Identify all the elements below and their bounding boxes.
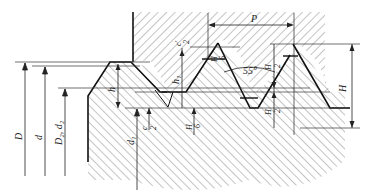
label-D2-d2: D₂, d₂ xyxy=(53,120,64,146)
label-h: h xyxy=(106,87,117,92)
label-angle: 55° xyxy=(243,65,257,76)
label-H6-lower-den: 6 xyxy=(193,124,202,128)
label-D: D xyxy=(13,132,24,141)
label-h1: h₁ xyxy=(170,76,181,84)
thread-profile-diagram: D d D₂, d₂ d₁ P H h h₁ 55° c 2 H 6 H 6 H… xyxy=(0,0,376,193)
label-d1: d₁ xyxy=(125,137,136,145)
label-H2-lower-den: 2 xyxy=(273,109,282,113)
label-H6-upper-den: 6 xyxy=(218,56,227,60)
label-H2-upper-den: 2 xyxy=(273,64,282,68)
bolt-section xyxy=(88,43,345,190)
label-cprime-den: 2 xyxy=(182,40,191,44)
label-P: P xyxy=(250,13,257,24)
label-d: d xyxy=(33,134,44,140)
label-c-den: 2 xyxy=(149,126,158,130)
label-H: H xyxy=(337,84,348,93)
label-c: c xyxy=(140,126,149,130)
